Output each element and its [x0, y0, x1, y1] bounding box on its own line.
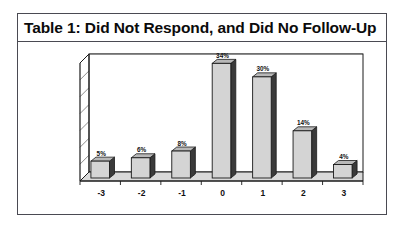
svg-text:8%: 8%	[177, 140, 187, 147]
chart-plot-area: 5%6%8%34%30%14%4% -3-2-10123	[18, 42, 386, 214]
svg-text:6%: 6%	[137, 146, 147, 153]
svg-text:4%: 4%	[339, 153, 349, 160]
svg-text:2: 2	[301, 188, 306, 198]
bar-chart-svg: 5%6%8%34%30%14%4% -3-2-10123	[18, 42, 385, 214]
svg-text:14%: 14%	[297, 119, 310, 126]
svg-text:30%: 30%	[257, 65, 270, 72]
page-title: Table 1: Did Not Respond, and Did No Fol…	[18, 19, 376, 37]
svg-text:-2: -2	[138, 188, 146, 198]
svg-text:0: 0	[220, 188, 225, 198]
chart-title-bar: Table 1: Did Not Respond, and Did No Fol…	[18, 14, 386, 42]
svg-text:3: 3	[341, 188, 346, 198]
chart-x-axis-labels: -3-2-10123	[80, 181, 363, 198]
screenshot-root: Table 1: Did Not Respond, and Did No Fol…	[0, 0, 403, 229]
svg-text:-1: -1	[178, 188, 186, 198]
figure-frame: Table 1: Did Not Respond, and Did No Fol…	[17, 13, 387, 215]
svg-text:5%: 5%	[97, 150, 107, 157]
svg-text:1: 1	[261, 188, 266, 198]
svg-text:34%: 34%	[216, 52, 229, 59]
svg-text:-3: -3	[97, 188, 105, 198]
